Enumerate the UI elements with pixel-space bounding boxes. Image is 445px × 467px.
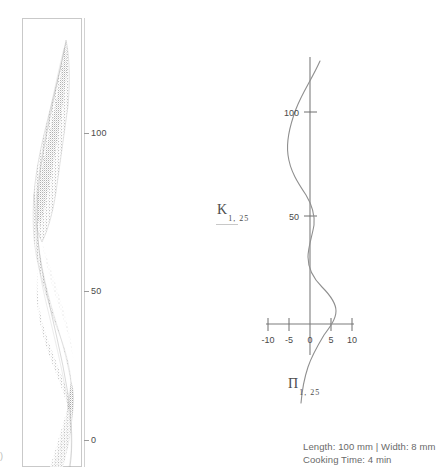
x-axis-title-main: Π — [288, 376, 298, 391]
spec-dimensions: Length: 100 mm | Width: 8 mm — [303, 440, 445, 453]
y-axis-title-main: K — [217, 202, 227, 217]
specimen-panel — [22, 18, 82, 467]
y-tick-label-50: 50 — [289, 212, 299, 222]
scale-axis-line — [84, 18, 85, 467]
scale-label-100: 100 — [91, 129, 107, 138]
scale-tick-100 — [84, 133, 89, 134]
y-axis-title-subscript: 1, 25 — [228, 214, 249, 223]
spec-caption: Length: 100 mm | Width: 8 mm Cooking Tim… — [303, 440, 445, 466]
x-axis-title: Π1, 25 — [288, 377, 319, 397]
x-tick-label-10: 10 — [347, 335, 357, 345]
specimen-scale-axis: 100 50 0 — [84, 18, 118, 467]
x-tick-label-0: 0 — [307, 335, 312, 345]
figure-canvas: 100 50 0 ) 100 50 -10 — [0, 0, 445, 467]
curve-plot: 100 50 -10 -5 0 5 10 — [200, 55, 445, 415]
y-axis-title-underline — [216, 224, 238, 225]
x-tick-label-5: 5 — [328, 335, 333, 345]
edge-partial-glyph: ) — [0, 452, 3, 461]
scale-tick-0 — [84, 440, 89, 441]
x-axis-title-subscript: 1, 25 — [299, 388, 320, 397]
y-tick-label-100: 100 — [284, 108, 299, 118]
x-tick-label-neg10: -10 — [261, 335, 274, 345]
specimen-shape — [22, 18, 82, 467]
plot-svg: 100 50 -10 -5 0 5 10 — [200, 55, 445, 415]
scale-label-0: 0 — [91, 436, 96, 445]
y-axis-title: K1, 25 — [217, 203, 248, 223]
spec-cooking-time: Cooking Time: 4 min — [303, 453, 445, 466]
scale-label-50: 50 — [91, 287, 101, 296]
scale-tick-50 — [84, 291, 89, 292]
x-tick-label-neg5: -5 — [285, 335, 293, 345]
